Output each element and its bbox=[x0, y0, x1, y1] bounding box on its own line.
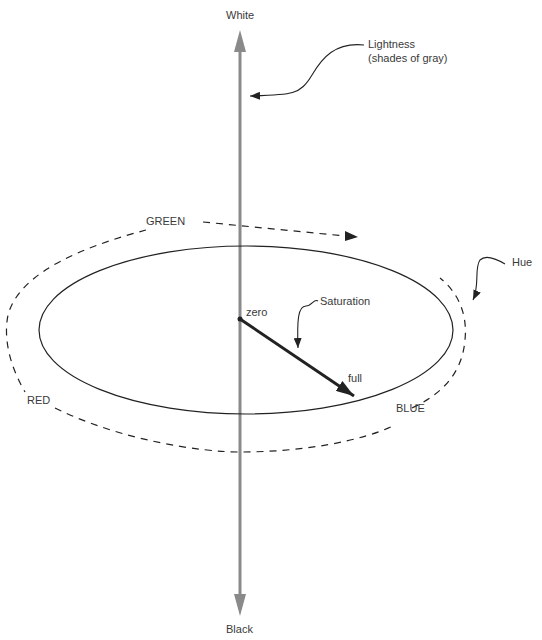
zero-label: zero bbox=[246, 306, 267, 319]
down-arrow-icon bbox=[234, 594, 246, 616]
lightness-callout bbox=[250, 45, 364, 96]
saturation-label: Saturation bbox=[320, 295, 370, 308]
black-label: Black bbox=[226, 623, 253, 636]
lightness-sublabel: (shades of gray) bbox=[368, 52, 447, 65]
hue-callout bbox=[473, 257, 505, 300]
green-label: GREEN bbox=[146, 215, 185, 228]
hue-label: Hue bbox=[512, 256, 532, 269]
saturation-vector bbox=[240, 319, 354, 396]
full-label: full bbox=[348, 372, 362, 385]
hue-circle bbox=[6, 222, 465, 452]
hue-direction-arrow-icon bbox=[345, 231, 358, 241]
white-label: White bbox=[226, 9, 254, 22]
saturation-disc bbox=[39, 246, 453, 414]
hsl-diagram bbox=[0, 0, 542, 640]
red-label: RED bbox=[27, 394, 50, 407]
lightness-label: Lightness bbox=[368, 38, 415, 51]
up-arrow-icon bbox=[234, 30, 246, 52]
blue-label: BLUE bbox=[396, 402, 425, 415]
saturation-callout bbox=[298, 300, 318, 348]
